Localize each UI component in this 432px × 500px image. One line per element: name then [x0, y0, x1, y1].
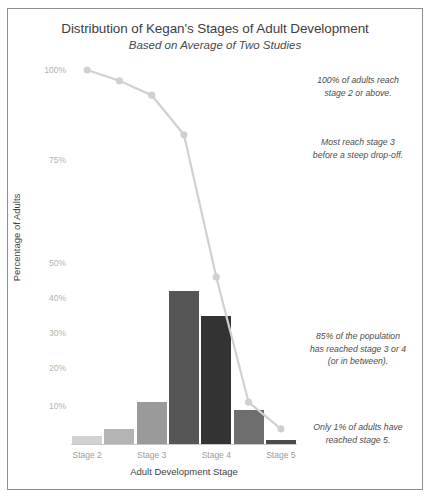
bar — [104, 429, 134, 444]
annotation-line: stage 2 or above. — [293, 87, 423, 100]
bar — [137, 402, 167, 444]
bar — [201, 316, 231, 445]
bar — [234, 410, 264, 444]
annotation-stage2: 100% of adults reachstage 2 or above. — [293, 74, 423, 99]
chart-title: Distribution of Kegan's Stages of Adult … — [8, 21, 422, 36]
annotation-stage34: 85% of the populationhas reached stage 3… — [293, 330, 423, 368]
y-tick-label: 40% — [49, 293, 66, 303]
y-tick-label: 20% — [49, 363, 66, 373]
y-tick-label: 50% — [49, 258, 66, 268]
y-tick-label: 75% — [49, 155, 66, 165]
annotation-line: 85% of the population — [293, 330, 423, 343]
annotation-line: before a steep drop-off. — [293, 149, 423, 162]
x-tick-label: Stage 5 — [255, 450, 307, 460]
annotation-line: reached stage 5. — [293, 434, 423, 447]
annotation-line: 100% of adults reach — [293, 74, 423, 87]
x-tick-label: Stage 4 — [190, 450, 242, 460]
x-axis-title: Adult Development Stage — [71, 466, 297, 477]
bar — [72, 436, 102, 444]
x-axis-baseline — [71, 444, 297, 445]
annotation-line: Only 1% of adults have — [293, 421, 423, 434]
x-tick-label: Stage 3 — [126, 450, 178, 460]
y-tick-label: 10% — [49, 401, 66, 411]
bar — [169, 291, 199, 444]
annotation-line: Most reach stage 3 — [293, 136, 423, 149]
chart-title-block: Distribution of Kegan's Stages of Adult … — [8, 21, 422, 51]
annotation-stage5: Only 1% of adults havereached stage 5. — [293, 421, 423, 446]
plot-area — [71, 62, 295, 444]
annotation-line: has reached stage 3 or 4 — [293, 343, 423, 356]
x-tick-label: Stage 2 — [61, 450, 113, 460]
y-tick-label: 100% — [44, 65, 66, 75]
y-tick-label: 30% — [49, 328, 66, 338]
annotation-line: (or in between). — [293, 355, 423, 368]
annotation-stage3: Most reach stage 3before a steep drop-of… — [293, 136, 423, 161]
chart-subtitle: Based on Average of Two Studies — [8, 39, 422, 51]
y-axis-title: Percentage of Adults — [11, 178, 22, 298]
